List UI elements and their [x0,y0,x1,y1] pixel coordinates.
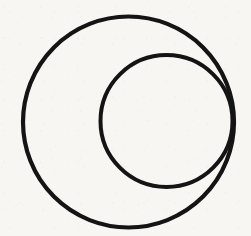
inner-circle [101,55,233,187]
circles-line-drawing [0,0,251,236]
outer-circle [23,17,234,228]
figure-canvas [0,0,251,236]
ink-layer [23,17,234,228]
